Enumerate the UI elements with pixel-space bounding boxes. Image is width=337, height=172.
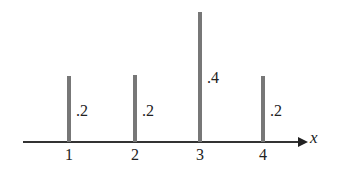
x-axis	[23, 141, 300, 143]
bar-2	[133, 75, 137, 142]
value-label-4: .2	[270, 102, 282, 120]
x-axis-label: x	[310, 128, 318, 148]
tick-label-2: 2	[131, 146, 139, 164]
tick-label-4: 4	[259, 146, 267, 164]
bar-4	[261, 76, 265, 142]
bar-3	[198, 12, 202, 142]
tick-label-1: 1	[65, 146, 73, 164]
value-label-3: .4	[207, 69, 219, 87]
x-axis-arrow-icon	[298, 137, 308, 147]
value-label-1: .2	[76, 102, 88, 120]
value-label-2: .2	[142, 102, 154, 120]
tick-label-3: 3	[196, 146, 204, 164]
bar-1	[67, 76, 71, 142]
